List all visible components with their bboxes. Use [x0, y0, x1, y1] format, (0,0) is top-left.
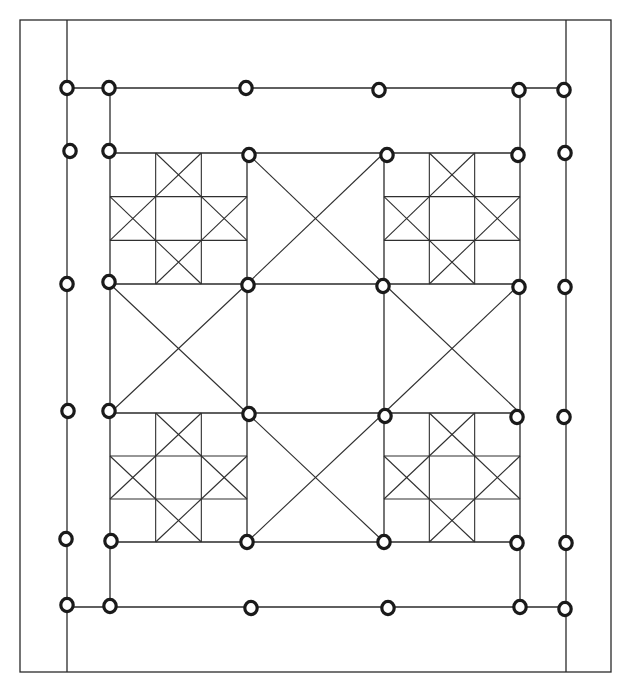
outer-frame — [20, 20, 611, 672]
node-circle-icon — [105, 534, 117, 547]
node-circle-icon — [513, 83, 525, 96]
node-circle-icon — [513, 280, 525, 293]
node-circle-icon — [103, 144, 115, 157]
node-circle-icon — [61, 81, 73, 94]
node-circle-icon — [558, 410, 570, 423]
node-circle-icon — [61, 598, 73, 611]
node-circle-icon — [560, 536, 572, 549]
node-circle-icon — [559, 146, 571, 159]
node-circle-icon — [60, 532, 72, 545]
node-circle-icon — [61, 277, 73, 290]
node-circle-icon — [245, 601, 257, 614]
node-circle-icon — [104, 599, 116, 612]
node-circle-icon — [378, 535, 390, 548]
frame-rect — [20, 20, 611, 672]
node-circle-icon — [559, 602, 571, 615]
node-circle-icon — [559, 280, 571, 293]
node-circle-icon — [243, 148, 255, 161]
node-circle-icon — [103, 404, 115, 417]
node-circle-icon — [512, 148, 524, 161]
node-circle-icon — [62, 404, 74, 417]
node-circle-icon — [243, 407, 255, 420]
node-circle-icon — [511, 536, 523, 549]
node-circle-icon — [241, 535, 253, 548]
node-circle-icon — [558, 83, 570, 96]
node-circle-icon — [103, 81, 115, 94]
node-circle-icon — [377, 279, 389, 292]
node-circle-icon — [242, 278, 254, 291]
node-circle-icon — [514, 600, 526, 613]
node-circle-icon — [511, 410, 523, 423]
pattern-blocks — [110, 153, 520, 542]
node-circle-icon — [240, 81, 252, 94]
node-circle-icon — [379, 409, 391, 422]
grid-lines — [67, 20, 566, 672]
node-circles — [60, 81, 572, 615]
node-circle-icon — [103, 275, 115, 288]
node-circle-icon — [382, 601, 394, 614]
quilt-diagram — [0, 0, 633, 689]
node-circle-icon — [373, 83, 385, 96]
node-circle-icon — [381, 148, 393, 161]
node-circle-icon — [64, 144, 76, 157]
